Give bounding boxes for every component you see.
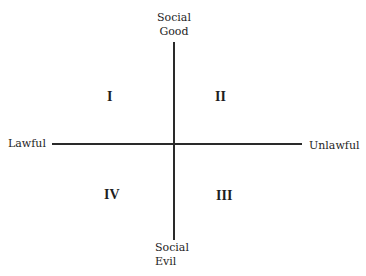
quadrant-label-3: III — [216, 188, 232, 204]
quadrant-label-4: IV — [104, 187, 120, 203]
horizontal-axis-line — [52, 143, 302, 145]
top-axis-label: Social Good — [154, 11, 194, 39]
top-axis-label-line1: Social — [154, 11, 194, 25]
vertical-axis-line — [173, 42, 175, 240]
left-axis-label: Lawful — [8, 137, 46, 151]
bottom-axis-label-line1: Social — [152, 241, 192, 255]
right-axis-label: Unlawful — [309, 139, 360, 153]
bottom-axis-label: Social Evil — [152, 241, 192, 269]
top-axis-label-line2: Good — [154, 25, 194, 39]
quadrant-label-2: II — [215, 89, 226, 105]
quadrant-label-1: I — [107, 89, 112, 105]
bottom-axis-label-line2: Evil — [152, 255, 192, 269]
